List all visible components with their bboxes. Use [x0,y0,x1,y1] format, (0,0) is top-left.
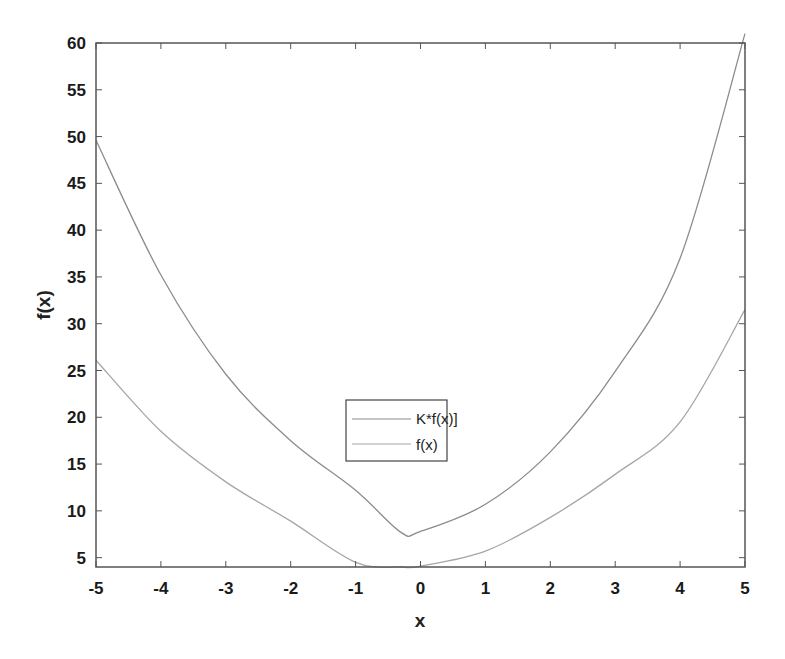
x-tick-label: -5 [88,579,103,598]
x-tick-label: 3 [610,579,619,598]
x-axis-label: x [415,610,426,631]
x-tick-label: -3 [218,579,233,598]
y-tick-label: 10 [67,502,86,521]
y-tick-label: 30 [67,315,86,334]
x-tick-label: 0 [416,579,425,598]
legend: K*f(x)] f(x) [346,400,458,461]
y-tick-label: 45 [67,174,86,193]
y-axis-label: f(x) [33,290,54,320]
y-tick-label: 5 [77,549,86,568]
chart-canvas: -5-4-3-2-101234551015202530354045505560 … [0,0,785,659]
y-tick-label: 15 [67,455,86,474]
y-tick-label: 40 [67,221,86,240]
x-tick-label: 1 [481,579,490,598]
y-tick-label: 20 [67,408,86,427]
y-tick-label: 25 [67,362,86,381]
x-tick-label: -4 [153,579,169,598]
x-tick-label: -2 [283,579,298,598]
y-tick-label: 35 [67,268,86,287]
x-tick-label: -1 [348,579,363,598]
y-tick-label: 50 [67,128,86,147]
legend-label-fx: f(x) [416,436,438,453]
y-tick-label: 60 [67,34,86,53]
x-tick-label: 2 [546,579,555,598]
y-tick-label: 55 [67,81,86,100]
plot-area [96,43,745,567]
x-tick-label: 4 [675,579,685,598]
x-tick-label: 5 [740,579,749,598]
legend-label-kfx: K*f(x)] [416,410,458,427]
